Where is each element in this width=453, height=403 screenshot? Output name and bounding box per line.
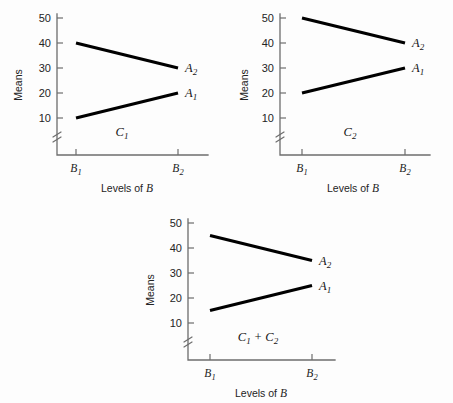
series-label-a2: A2 <box>411 36 425 52</box>
data-line-a2 <box>210 236 312 261</box>
series-label-a1: A1 <box>318 279 331 295</box>
ytick-label-30: 30 <box>170 267 182 279</box>
xtick-label-b2: B2 <box>172 162 184 177</box>
panel-label-c2: C2 <box>344 125 357 141</box>
ytick-label-30: 30 <box>39 62 51 74</box>
xtick-label-b1: B1 <box>204 367 215 382</box>
panel-c1-plus-c2: 50 40 30 20 10 Means B1 B2 Levels of B A… <box>130 205 360 403</box>
xtick-label-b2: B2 <box>399 162 411 177</box>
panel-c2: 50 40 30 20 10 Means B1 B2 Levels of B A… <box>230 0 453 200</box>
y-axis-title: Means <box>12 69 24 101</box>
interaction-plot-figure: 50 40 30 20 10 Means B1 B2 Levels of B A… <box>0 0 453 403</box>
data-line-a1 <box>76 93 178 118</box>
panel-label-c1-plus-c2: C1 + C2 <box>238 330 279 346</box>
ytick-label-50: 50 <box>39 12 51 24</box>
x-axis-title: Levels of B <box>235 387 287 399</box>
series-label-a1: A1 <box>184 86 197 102</box>
series-label-a1: A1 <box>411 61 424 77</box>
ytick-label-40: 40 <box>170 242 182 254</box>
ytick-label-10: 10 <box>262 112 274 124</box>
panel-c1: 50 40 30 20 10 Means B1 B2 Levels of B A… <box>0 0 230 200</box>
data-line-a2 <box>302 18 405 43</box>
ytick-label-40: 40 <box>39 37 51 49</box>
xtick-label-b1: B1 <box>70 162 81 177</box>
data-line-a1 <box>210 286 312 311</box>
series-label-a2: A2 <box>318 254 332 270</box>
ytick-label-40: 40 <box>262 37 274 49</box>
y-axis-title: Means <box>238 69 250 101</box>
ytick-label-30: 30 <box>262 62 274 74</box>
ytick-label-50: 50 <box>170 217 182 229</box>
xtick-label-b1: B1 <box>296 162 307 177</box>
xtick-label-b2: B2 <box>306 367 318 382</box>
ytick-label-20: 20 <box>170 292 182 304</box>
x-axis-title: Levels of B <box>101 182 153 194</box>
axis-lines-c1 <box>57 14 208 155</box>
data-line-a2 <box>76 43 178 68</box>
data-line-a1 <box>302 68 405 93</box>
ytick-label-10: 10 <box>170 317 182 329</box>
ytick-label-10: 10 <box>39 112 51 124</box>
panel-label-c1: C1 <box>116 125 129 141</box>
ytick-label-50: 50 <box>262 12 274 24</box>
y-axis-title: Means <box>144 274 156 306</box>
x-axis-title: Levels of B <box>327 182 379 194</box>
ytick-label-20: 20 <box>262 87 274 99</box>
ytick-label-20: 20 <box>39 87 51 99</box>
series-label-a2: A2 <box>184 61 198 77</box>
